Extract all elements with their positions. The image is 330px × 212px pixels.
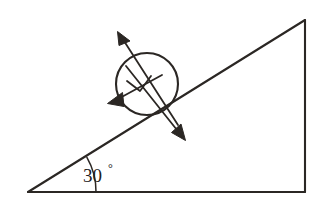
vector-down-left-shaft (118, 75, 162, 99)
vector-up-left-arrowhead (118, 32, 131, 46)
angle-label: 30 ° (83, 161, 113, 186)
inclined-plane-diagram: 30 ° (0, 0, 330, 212)
figure-root: 30 ° (0, 0, 330, 212)
angle-value-text: 30 (83, 165, 102, 186)
vector-down-left-arrowhead (108, 93, 125, 107)
degree-symbol-text: ° (108, 161, 113, 175)
vector-up-left (118, 32, 179, 126)
